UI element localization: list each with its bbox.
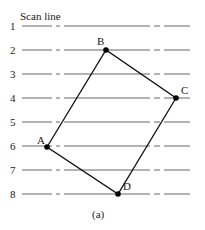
scan-line-number: 6 — [10, 140, 16, 152]
scan-line-number: 2 — [10, 44, 16, 56]
scan-lines: 12345678 — [10, 20, 190, 200]
vertex-label: C — [181, 84, 188, 96]
vertex-point — [115, 191, 121, 197]
vertex-label: A — [37, 134, 45, 146]
scan-line-number: 5 — [10, 116, 16, 128]
vertex-point — [44, 144, 50, 150]
vertex-point — [173, 95, 179, 101]
scan-line-number: 1 — [10, 20, 16, 32]
scan-line-number: 3 — [10, 68, 16, 80]
vertex-point — [103, 47, 109, 53]
scan-line-title: Scan line — [20, 10, 61, 22]
vertex-label: D — [123, 180, 131, 192]
vertex-label: B — [97, 35, 104, 47]
figure-caption: (a) — [92, 208, 105, 221]
scan-line-number: 4 — [10, 92, 16, 104]
scan-line-diagram: Scan line 12345678 ABCD (a) — [0, 0, 205, 230]
scan-line-number: 8 — [10, 188, 16, 200]
scan-line-number: 7 — [10, 164, 16, 176]
